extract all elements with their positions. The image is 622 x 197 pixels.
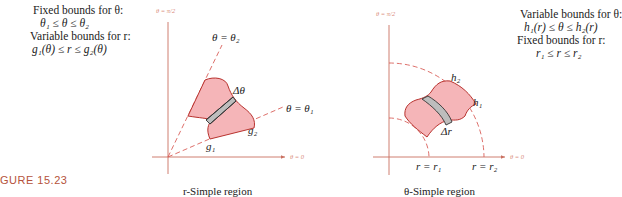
- right-diagram: [373, 25, 505, 175]
- delta-theta-label: Δθ: [232, 84, 245, 96]
- right-horizontal-axis-label: θ = 0: [510, 153, 525, 160]
- left-diagram: [152, 22, 285, 174]
- left-caption: r-Simple region: [183, 185, 252, 197]
- left-horizontal-axis-label: θ = 0: [290, 153, 305, 160]
- r1-label: r = r₁: [416, 160, 441, 172]
- h2-label: h₂: [451, 71, 461, 83]
- theta1-label: θ = θ₁: [286, 102, 314, 114]
- g1-label: g₁: [206, 140, 216, 152]
- left-vertical-axis-label: θ = π/2: [156, 7, 176, 14]
- h1-label: h₁: [473, 96, 483, 108]
- g2-label: g₂: [248, 124, 258, 136]
- right-vertical-axis-label: θ = π/2: [376, 10, 396, 17]
- r2-label: r = r₂: [472, 160, 497, 172]
- theta2-label: θ = θ₂: [212, 31, 240, 43]
- right-caption: θ-Simple region: [404, 185, 475, 197]
- delta-r-label: Δr: [440, 125, 452, 137]
